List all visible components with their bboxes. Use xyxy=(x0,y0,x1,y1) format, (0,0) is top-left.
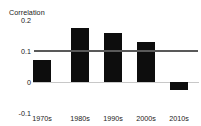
bar-1980s xyxy=(71,28,89,82)
y-axis-tick-labels: 0.2 0.1 0 -0.1 xyxy=(0,20,31,113)
y-tick-label-2: 0 xyxy=(5,78,31,87)
y-tick-label-3: -0.1 xyxy=(5,109,31,118)
y-tick-label-1: 0.1 xyxy=(5,47,31,56)
bar-1970s xyxy=(33,60,51,82)
bar-2000s xyxy=(137,42,155,82)
reference-line xyxy=(34,50,198,52)
bar-1990s xyxy=(104,33,122,82)
y-tick-label-0: 0.2 xyxy=(5,16,31,25)
correlation-bar-chart: Correlation 0.2 0.1 0 -0.1 1970s 1980s 1… xyxy=(0,0,201,126)
bar-2010s xyxy=(170,82,188,90)
x-tick-label-2000s: 2000s xyxy=(136,114,156,123)
x-tick-label-1980s: 1980s xyxy=(70,114,90,123)
x-tick-label-1970s: 1970s xyxy=(32,114,52,123)
x-tick-label-2010s: 2010s xyxy=(169,114,189,123)
x-tick-label-1990s: 1990s xyxy=(103,114,123,123)
